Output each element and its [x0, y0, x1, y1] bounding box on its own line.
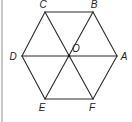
vertex-label-e: E — [39, 102, 46, 113]
edge-ab — [93, 12, 117, 56]
edge-cd — [22, 12, 45, 56]
vertex-label-d: D — [9, 51, 16, 62]
edge-de — [22, 56, 45, 99]
hexagon-diagram: A B C D E F O — [0, 0, 132, 122]
center-label-o: O — [72, 43, 80, 54]
edge-fa — [93, 56, 117, 99]
diagram-frame: A B C D E F O — [0, 0, 132, 122]
vertex-label-f: F — [89, 102, 96, 113]
center-point — [68, 55, 71, 58]
vertex-label-a: A — [120, 51, 128, 62]
vertex-label-b: B — [91, 0, 98, 10]
vertex-label-c: C — [39, 0, 47, 10]
